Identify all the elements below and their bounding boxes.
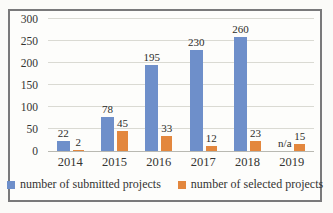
bar-slot-2017-submitted: 230 — [190, 19, 203, 151]
value-label-2016-submitted: 195 — [144, 52, 161, 63]
y-tick-label-0: 0 — [32, 145, 38, 157]
y-tick-label-100: 100 — [21, 101, 38, 113]
y-tick-label-150: 150 — [21, 79, 38, 91]
bar-group-2016: 19533 — [137, 19, 181, 151]
bar-2014-submitted — [57, 141, 70, 151]
bar-slot-2015-submitted: 78 — [101, 19, 114, 151]
y-tick-label-50: 50 — [27, 123, 39, 135]
bar-2015-selected — [117, 131, 128, 151]
bar-slot-2014-selected: 2 — [73, 19, 84, 151]
submitted-swatch-icon — [7, 181, 15, 189]
legend: number of submitted projects number of s… — [10, 177, 320, 192]
value-label-2018-submitted: 260 — [232, 24, 249, 35]
value-label-2015-selected: 45 — [117, 118, 128, 129]
bar-slot-2014-submitted: 22 — [57, 19, 70, 151]
legend-item-selected: number of selected projects — [178, 177, 323, 192]
bar-group-2019: n/a15 — [270, 19, 314, 151]
legend-item-submitted: number of submitted projects — [7, 177, 161, 192]
bar-slot-2019-submitted: n/a — [278, 19, 291, 151]
bar-2019-selected — [294, 144, 305, 151]
value-label-2017-selected: 12 — [206, 133, 217, 144]
legend-label-selected: number of selected projects — [191, 177, 323, 192]
bar-group-2018: 26023 — [225, 19, 269, 151]
bar-2014-selected — [73, 150, 84, 151]
plot-area: 2227845195332301226023n/a15 — [48, 19, 314, 152]
value-label-2017-submitted: 230 — [188, 37, 205, 48]
bar-slot-2016-submitted: 195 — [145, 19, 158, 151]
bar-slot-2018-selected: 23 — [250, 19, 261, 151]
x-tick-label-2014: 2014 — [48, 155, 92, 170]
legend-label-submitted: number of submitted projects — [20, 177, 161, 192]
bar-2017-submitted — [190, 50, 203, 151]
bar-group-2014: 222 — [48, 19, 92, 151]
bar-2018-selected — [250, 141, 261, 151]
bar-2018-submitted — [234, 37, 247, 151]
value-label-2018-selected: 23 — [250, 128, 261, 139]
bar-slot-2015-selected: 45 — [117, 19, 128, 151]
value-label-2015-submitted: 78 — [102, 104, 113, 115]
value-label-2019-submitted: n/a — [278, 138, 291, 149]
y-tick-label-300: 300 — [21, 13, 38, 25]
bar-group-2015: 7845 — [92, 19, 136, 151]
bar-slot-2016-selected: 33 — [161, 19, 172, 151]
x-tick-label-2016: 2016 — [137, 155, 181, 170]
y-tick-label-250: 250 — [21, 35, 38, 47]
x-tick-label-2019: 2019 — [270, 155, 314, 170]
value-label-2019-selected: 15 — [294, 131, 305, 142]
bar-slot-2019-selected: 15 — [294, 19, 305, 151]
value-label-2014-submitted: 22 — [58, 128, 69, 139]
bar-2016-submitted — [145, 65, 158, 151]
bar-group-2017: 23012 — [181, 19, 225, 151]
y-axis: 050100150200250300 — [10, 19, 43, 151]
bar-chart-figure: 050100150200250300 222784519533230122602… — [0, 0, 333, 213]
bar-slot-2017-selected: 12 — [206, 19, 217, 151]
bar-2017-selected — [206, 146, 217, 151]
chart-frame: 050100150200250300 222784519533230122602… — [8, 9, 322, 202]
bar-2015-submitted — [101, 117, 114, 151]
value-label-2014-selected: 2 — [75, 137, 81, 148]
y-tick-label-200: 200 — [21, 57, 38, 69]
x-tick-label-2018: 2018 — [225, 155, 269, 170]
bar-2016-selected — [161, 136, 172, 151]
x-tick-label-2017: 2017 — [181, 155, 225, 170]
x-axis: 201420152016201720182019 — [48, 155, 314, 170]
value-label-2016-selected: 33 — [161, 123, 172, 134]
x-tick-label-2015: 2015 — [92, 155, 136, 170]
selected-swatch-icon — [178, 181, 186, 189]
bar-slot-2018-submitted: 260 — [234, 19, 247, 151]
